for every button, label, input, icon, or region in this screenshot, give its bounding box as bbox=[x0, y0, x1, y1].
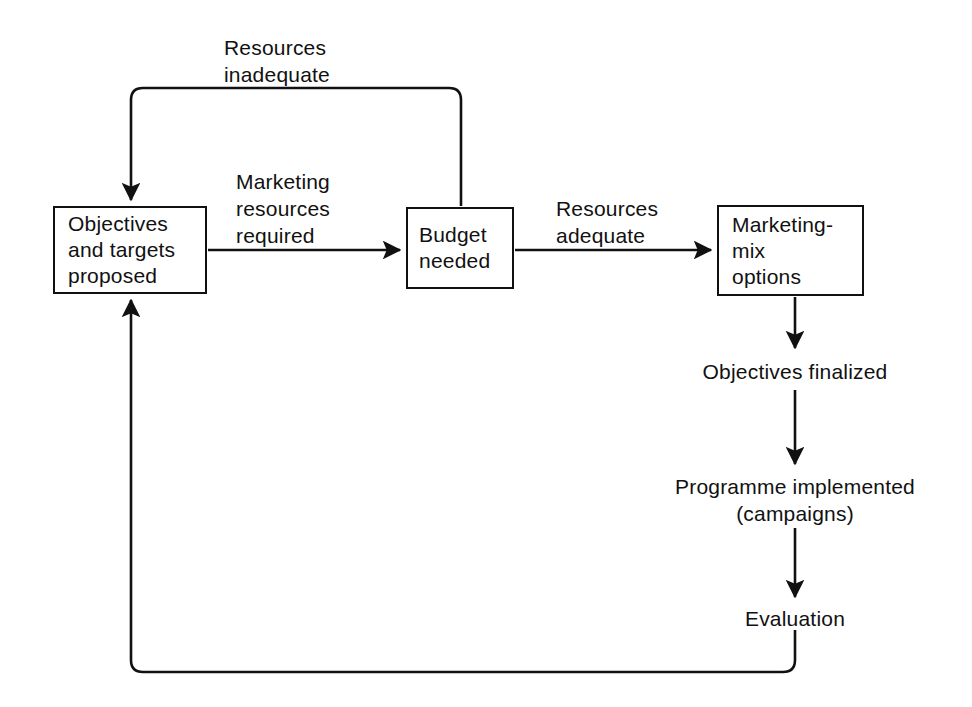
edge-label-line: required bbox=[236, 222, 330, 249]
node-line: Budget bbox=[419, 222, 487, 248]
node-line: Objectives bbox=[68, 211, 168, 237]
stage-label-line: Evaluation bbox=[745, 605, 845, 632]
node-line: and targets bbox=[68, 237, 175, 263]
edge-label-marketing-resources-required: Marketing resources required bbox=[236, 168, 330, 249]
edge-label-line: adequate bbox=[556, 222, 658, 249]
node-line: Marketing- bbox=[732, 212, 833, 238]
edge-label-line: inadequate bbox=[224, 61, 330, 88]
edge-label-resources-adequate: Resources adequate bbox=[556, 195, 658, 249]
flowchart-diagram: Objectives and targets proposed Budget n… bbox=[0, 0, 972, 707]
stage-label-line: Objectives finalized bbox=[703, 358, 888, 385]
node-line: proposed bbox=[68, 263, 157, 289]
stage-label-objectives-finalized: Objectives finalized bbox=[703, 358, 888, 385]
node-budget-needed[interactable]: Budget needed bbox=[406, 207, 514, 289]
stage-label-line: (campaigns) bbox=[675, 500, 915, 527]
node-line: needed bbox=[419, 248, 490, 274]
node-objectives-and-targets-proposed[interactable]: Objectives and targets proposed bbox=[53, 206, 207, 294]
edge-label-line: Resources bbox=[224, 34, 330, 61]
stage-label-evaluation: Evaluation bbox=[745, 605, 845, 632]
edge-label-line: resources bbox=[236, 195, 330, 222]
stage-label-programme-implemented: Programme implemented (campaigns) bbox=[675, 473, 915, 527]
node-line: options bbox=[732, 264, 801, 290]
node-line: mix bbox=[732, 238, 765, 264]
edge-label-resources-inadequate: Resources inadequate bbox=[224, 34, 330, 88]
stage-label-line: Programme implemented bbox=[675, 473, 915, 500]
node-marketing-mix-options[interactable]: Marketing- mix options bbox=[717, 205, 864, 296]
edge-label-line: Resources bbox=[556, 195, 658, 222]
flowchart-connectors-layer bbox=[0, 0, 972, 707]
edge-label-line: Marketing bbox=[236, 168, 330, 195]
